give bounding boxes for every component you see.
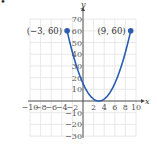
svg-text:(−3, 60): (−3, 60) bbox=[27, 26, 62, 36]
svg-text:−10: −10 bbox=[65, 109, 82, 118]
svg-text:8: 8 bbox=[123, 103, 128, 112]
svg-text:y: y bbox=[80, 0, 86, 9]
svg-text:x: x bbox=[145, 97, 150, 106]
svg-text:10: 10 bbox=[72, 85, 82, 94]
svg-text:50: 50 bbox=[72, 39, 82, 48]
axes: xy bbox=[28, 0, 150, 138]
svg-text:(9, 60): (9, 60) bbox=[97, 26, 125, 36]
svg-text:6: 6 bbox=[112, 103, 117, 112]
svg-text:10: 10 bbox=[131, 103, 141, 112]
svg-text:70: 70 bbox=[72, 15, 82, 24]
svg-text:−20: −20 bbox=[65, 120, 82, 129]
svg-text:60: 60 bbox=[72, 27, 82, 36]
svg-text:−30: −30 bbox=[65, 132, 82, 141]
svg-text:2: 2 bbox=[91, 103, 96, 112]
svg-text:4: 4 bbox=[102, 103, 107, 112]
parabola-chart: xy −10−8−6−4−2246810−30−20−1010203040506… bbox=[0, 0, 157, 144]
